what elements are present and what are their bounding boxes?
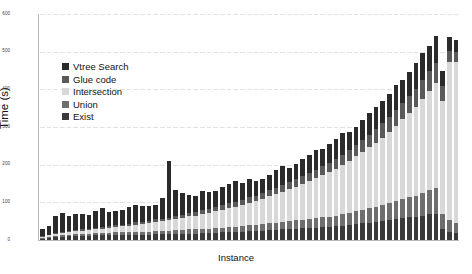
bar-segment-union bbox=[434, 188, 439, 214]
bar-segment-vtree-search bbox=[407, 72, 412, 96]
bar-segment-exist bbox=[407, 217, 412, 240]
bar-stack bbox=[446, 14, 453, 240]
bar-segment-vtree-search bbox=[267, 175, 272, 191]
legend-swatch-icon bbox=[62, 63, 69, 70]
bar-stack bbox=[353, 14, 360, 240]
bar-segment-exist bbox=[80, 236, 85, 240]
bar-segment-exist bbox=[60, 237, 65, 240]
bar-segment-vtree-search bbox=[53, 216, 58, 233]
bar-segment-intersection bbox=[380, 138, 385, 206]
bar-segment-intersection bbox=[153, 222, 158, 231]
bar-segment-glue-code bbox=[314, 170, 319, 179]
bar-stack bbox=[99, 14, 106, 240]
bar-segment-vtree-search bbox=[300, 159, 305, 176]
bar-stack bbox=[219, 14, 226, 240]
bar-segment-intersection bbox=[133, 225, 138, 232]
bar-segment-vtree-search bbox=[233, 181, 238, 202]
bar-segment-intersection bbox=[140, 224, 145, 232]
bar-segment-exist bbox=[160, 234, 165, 240]
bar-segment-exist bbox=[120, 235, 125, 240]
bar-stack bbox=[226, 14, 233, 240]
bar-segment-vtree-search bbox=[420, 53, 425, 80]
bar-segment-exist bbox=[167, 234, 172, 240]
bar-segment-union bbox=[294, 220, 299, 228]
bar-segment-glue-code bbox=[354, 145, 359, 156]
bar-segment-exist bbox=[327, 227, 332, 240]
bar-segment-vtree-search bbox=[340, 133, 345, 155]
bar-segment-union bbox=[387, 203, 392, 220]
bar-segment-intersection bbox=[240, 205, 245, 226]
bar-segment-exist bbox=[140, 235, 145, 240]
legend-swatch-icon bbox=[62, 88, 69, 95]
bar-segment-glue-code bbox=[454, 52, 459, 62]
bar-stack bbox=[206, 14, 213, 240]
bar-stack bbox=[239, 14, 246, 240]
bar-stack bbox=[112, 14, 119, 240]
bar-stack bbox=[453, 14, 460, 240]
bar-segment-vtree-search bbox=[240, 183, 245, 200]
legend-swatch-icon bbox=[62, 101, 69, 108]
bar-segment-union bbox=[400, 199, 405, 218]
bar-stack bbox=[313, 14, 320, 240]
bar-segment-exist bbox=[334, 226, 339, 240]
legend-item: Intersection bbox=[62, 86, 128, 97]
bar-segment-vtree-search bbox=[414, 63, 419, 89]
bar-stack bbox=[119, 14, 126, 240]
bar-segment-vtree-search bbox=[60, 213, 65, 233]
bar-stack bbox=[146, 14, 153, 240]
bar-segment-exist bbox=[73, 236, 78, 240]
bar-stack bbox=[266, 14, 273, 240]
bar-segment-vtree-search bbox=[127, 207, 132, 224]
bar-segment-vtree-search bbox=[87, 215, 92, 229]
bar-segment-exist bbox=[300, 228, 305, 240]
bar-segment-exist bbox=[47, 238, 52, 240]
legend-label: Exist bbox=[73, 111, 94, 122]
bar-stack bbox=[199, 14, 206, 240]
bar-stack bbox=[419, 14, 426, 240]
bar-segment-intersection bbox=[434, 83, 439, 188]
bar-segment-union bbox=[307, 219, 312, 228]
bar-segment-exist bbox=[340, 226, 345, 240]
bar-segment-union bbox=[287, 221, 292, 229]
bar-segment-vtree-search bbox=[67, 216, 72, 231]
bar-segment-vtree-search bbox=[254, 181, 259, 196]
bar-stack bbox=[286, 14, 293, 240]
bar-segment-exist bbox=[247, 231, 252, 240]
bar-segment-union bbox=[447, 220, 452, 231]
bar-segment-intersection bbox=[287, 189, 292, 221]
legend-label: Vtree Search bbox=[73, 61, 128, 72]
bar-segment-union bbox=[327, 217, 332, 227]
bar-segment-intersection bbox=[274, 194, 279, 223]
bar-segment-glue-code bbox=[420, 80, 425, 99]
bar-stack bbox=[192, 14, 199, 240]
bar-segment-exist bbox=[227, 232, 232, 240]
bar-segment-vtree-search bbox=[173, 190, 178, 216]
bar-segment-intersection bbox=[454, 62, 459, 224]
bar-segment-glue-code bbox=[300, 176, 305, 184]
bar-stack bbox=[92, 14, 99, 240]
bar-stack bbox=[433, 14, 440, 240]
bar-segment-intersection bbox=[173, 219, 178, 230]
bar-segment-vtree-search bbox=[213, 191, 218, 207]
legend-item: Glue code bbox=[62, 74, 128, 85]
bar-stack bbox=[159, 14, 166, 240]
bar-segment-exist bbox=[113, 235, 118, 240]
bar-segment-exist bbox=[434, 214, 439, 240]
bar-segment-vtree-search bbox=[387, 94, 392, 117]
bar-segment-vtree-search bbox=[374, 107, 379, 130]
bar-segment-vtree-search bbox=[354, 127, 359, 145]
bar-segment-vtree-search bbox=[454, 40, 459, 51]
bar-stack bbox=[39, 14, 46, 240]
bar-segment-intersection bbox=[340, 165, 345, 214]
legend-label: Intersection bbox=[73, 86, 122, 97]
bar-stack bbox=[246, 14, 253, 240]
bar-stack bbox=[172, 14, 179, 240]
bar-stack bbox=[179, 14, 186, 240]
bar-segment-vtree-search bbox=[347, 132, 352, 151]
bar-segment-intersection bbox=[213, 211, 218, 228]
bar-segment-vtree-search bbox=[93, 211, 98, 228]
bar-segment-exist bbox=[400, 218, 405, 240]
y-axis-tick-label: 400 bbox=[0, 87, 10, 92]
bar-segment-intersection bbox=[127, 226, 132, 233]
bar-segment-exist bbox=[127, 235, 132, 240]
